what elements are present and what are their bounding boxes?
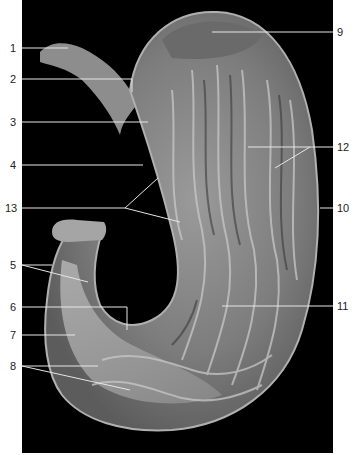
label-5: 5 [10, 259, 16, 271]
label-1: 1 [10, 42, 16, 54]
label-2: 2 [10, 73, 16, 85]
label-10: 10 [337, 202, 349, 214]
leader-lines [0, 0, 354, 455]
label-3: 3 [10, 116, 16, 128]
label-4: 4 [10, 159, 16, 171]
label-11: 11 [337, 300, 348, 312]
label-7: 7 [10, 329, 16, 341]
label-6: 6 [10, 301, 16, 313]
label-13: 13 [5, 202, 17, 214]
label-9: 9 [337, 26, 343, 38]
label-8: 8 [10, 360, 16, 372]
label-12: 12 [337, 141, 349, 153]
